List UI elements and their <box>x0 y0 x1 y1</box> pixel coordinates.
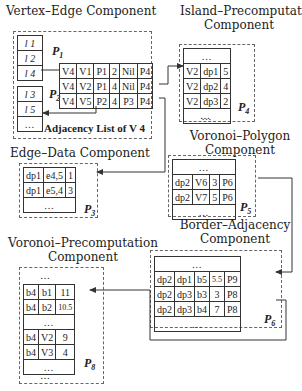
border-to-voronoi-precomp-arrow <box>90 290 286 340</box>
connector-arrows <box>0 0 302 391</box>
row3-to-edge-data-arrow <box>97 98 165 172</box>
v5-to-l5-arrow <box>43 106 96 113</box>
row2-to-island-arrow <box>159 66 183 84</box>
polygon-to-border-arrow <box>258 178 292 272</box>
